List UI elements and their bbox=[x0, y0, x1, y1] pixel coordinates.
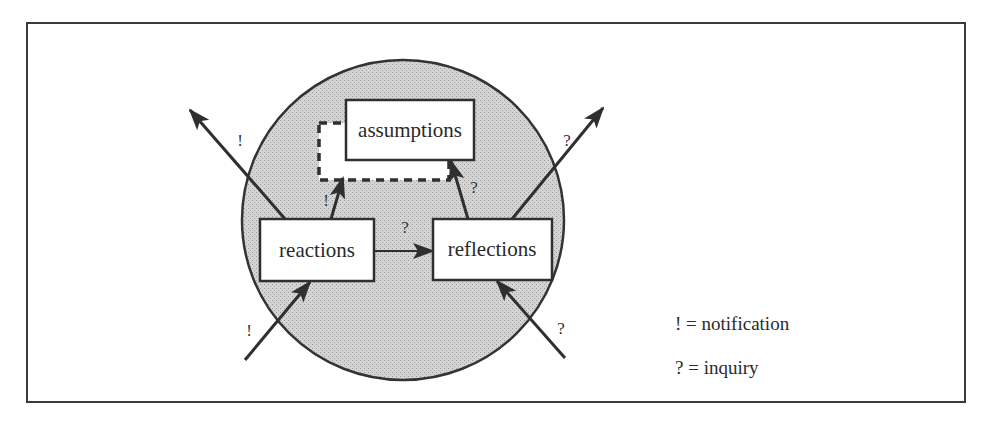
legend: ! = notification ? = inquiry bbox=[675, 313, 790, 378]
reactions-label: reactions bbox=[279, 238, 355, 262]
reactions-node: reactions bbox=[260, 219, 374, 281]
diagram-canvas: assumptions reactions reflections ! ? ! … bbox=[0, 0, 990, 426]
mark-reflections-to-assumptions: ? bbox=[470, 178, 478, 197]
reflections-label: reflections bbox=[448, 237, 537, 261]
mark-reactions-out: ! bbox=[237, 131, 243, 150]
mark-reactions-to-reflections: ? bbox=[401, 218, 409, 237]
assumptions-label: assumptions bbox=[358, 118, 462, 142]
mark-in-reactions: ! bbox=[246, 321, 252, 340]
mark-reactions-to-assumptions: ! bbox=[323, 191, 329, 210]
legend-inquiry: ? = inquiry bbox=[675, 357, 759, 378]
assumptions-node: assumptions bbox=[346, 100, 474, 160]
mark-reflections-out: ? bbox=[563, 131, 571, 150]
legend-notification: ! = notification bbox=[675, 313, 790, 334]
reflections-node: reflections bbox=[433, 219, 552, 280]
mark-in-reflections: ? bbox=[557, 319, 565, 338]
